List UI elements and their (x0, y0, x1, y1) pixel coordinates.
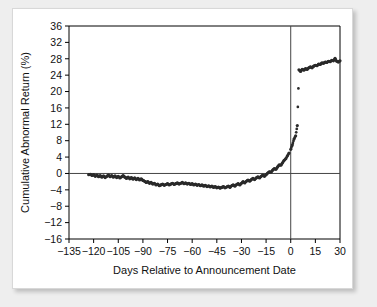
x-tick-label: −45 (208, 245, 226, 257)
y-axis-tick-labels: −16−12−8−404812162024283236 (44, 20, 62, 245)
x-tick-label: −90 (134, 245, 152, 257)
y-tick-label: −16 (44, 233, 62, 245)
y-tick-label: 8 (56, 134, 62, 146)
y-tick-label: 24 (50, 69, 62, 81)
x-tick-label: −15 (257, 245, 275, 257)
data-series-points (87, 57, 341, 190)
y-tick-label: 16 (50, 102, 62, 114)
reference-lines (69, 26, 340, 239)
x-axis-ticks (69, 239, 340, 243)
x-tick-label: −75 (159, 245, 177, 257)
x-tick-label: 30 (334, 245, 346, 257)
y-tick-label: 36 (50, 20, 62, 32)
y-tick-label: −8 (50, 200, 62, 212)
y-tick-label: 28 (50, 53, 62, 65)
y-tick-label: −4 (50, 184, 62, 196)
x-tick-label: −30 (233, 245, 251, 257)
y-tick-label: 32 (50, 36, 62, 48)
y-tick-label: 0 (56, 167, 62, 179)
x-axis-title: Days Relative to Announcement Date (113, 264, 296, 276)
plot-frame (69, 26, 340, 239)
chart-area: −16−12−8−404812162024283236 −135−120−105… (13, 9, 352, 288)
page-root: −16−12−8−404812162024283236 −135−120−105… (0, 0, 377, 307)
x-tick-label: −105 (106, 245, 130, 257)
cumulative-abnormal-return-chart: −16−12−8−404812162024283236 −135−120−105… (13, 9, 352, 288)
y-tick-label: −12 (44, 216, 62, 228)
figure-card: −16−12−8−404812162024283236 −135−120−105… (12, 8, 353, 289)
x-tick-label: −60 (183, 245, 201, 257)
y-tick-label: 20 (50, 85, 62, 97)
y-axis-title: Cumulative Abnormal Return (%) (19, 52, 31, 213)
y-tick-label: 12 (50, 118, 62, 130)
x-tick-label: 15 (310, 245, 322, 257)
x-tick-label: −120 (82, 245, 106, 257)
x-tick-label: 0 (288, 245, 294, 257)
y-axis-ticks (65, 26, 69, 239)
x-tick-label: −135 (57, 245, 81, 257)
x-axis-tick-labels: −135−120−105−90−75−60−45−30−1501530 (57, 245, 346, 257)
y-tick-label: 4 (56, 151, 62, 163)
